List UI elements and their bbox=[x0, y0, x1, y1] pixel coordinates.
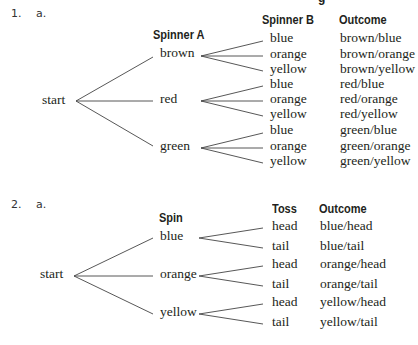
level2-node: tail bbox=[272, 238, 289, 254]
outcome: orange/tail bbox=[320, 276, 378, 292]
cutoff-heading-fragment: g bbox=[318, 0, 325, 5]
branch-yellow-tail bbox=[199, 314, 263, 324]
level1-node: orange bbox=[160, 266, 197, 282]
outcome: green/orange bbox=[340, 138, 410, 154]
level1-node: red bbox=[160, 91, 177, 107]
outcome: blue/head bbox=[320, 218, 372, 234]
problem-part: a. bbox=[36, 198, 46, 211]
level2-node: tail bbox=[272, 314, 289, 330]
branch-start-green bbox=[76, 101, 153, 146]
outcome: brown/yellow bbox=[340, 61, 415, 77]
branch-start-blue bbox=[74, 238, 153, 276]
header-outcome: Outcome bbox=[319, 202, 367, 216]
outcome: brown/blue bbox=[340, 30, 402, 46]
branch-blue-head bbox=[199, 228, 263, 238]
header-spinner-a: Spinner A bbox=[153, 28, 205, 42]
header-toss: Toss bbox=[272, 202, 297, 216]
outcome: red/orange bbox=[340, 91, 398, 107]
branch-green-blue bbox=[201, 133, 263, 148]
outcome: orange/head bbox=[320, 256, 386, 272]
level1-node: green bbox=[160, 138, 190, 154]
level2-node: orange bbox=[270, 91, 307, 107]
level1-node: brown bbox=[160, 45, 195, 61]
level2-node: yellow bbox=[270, 61, 307, 77]
header-spin: Spin bbox=[159, 211, 183, 225]
level2-node: blue bbox=[270, 122, 293, 138]
branch-green-yellow bbox=[201, 148, 263, 163]
level2-node: blue bbox=[270, 76, 293, 92]
branch-start-brown bbox=[76, 57, 153, 101]
outcome: yellow/head bbox=[320, 294, 386, 310]
problem-number: 2. bbox=[11, 198, 22, 211]
problem-number: 1. bbox=[11, 7, 22, 20]
header-spinner-b: Spinner B bbox=[262, 13, 314, 27]
branch-blue-tail bbox=[199, 238, 263, 248]
level2-node: orange bbox=[270, 46, 307, 62]
level2-node: head bbox=[272, 294, 297, 310]
outcome: yellow/tail bbox=[320, 314, 378, 330]
level2-node: tail bbox=[272, 276, 289, 292]
outcome: red/blue bbox=[340, 76, 384, 92]
level2-node: yellow bbox=[270, 106, 307, 122]
level1-node: yellow bbox=[160, 304, 197, 320]
outcome: blue/tail bbox=[320, 238, 364, 254]
problem-part: a. bbox=[36, 7, 46, 20]
branch-red-yellow bbox=[201, 101, 263, 116]
level2-node: blue bbox=[270, 30, 293, 46]
header-outcome: Outcome bbox=[339, 13, 387, 27]
branch-brown-yellow bbox=[201, 56, 263, 71]
level1-node: blue bbox=[160, 228, 183, 244]
outcome: red/yellow bbox=[340, 106, 398, 122]
branch-orange-head bbox=[199, 266, 263, 276]
outcome: brown/orange bbox=[340, 46, 415, 62]
branch-yellow-head bbox=[199, 304, 263, 314]
root-start: start bbox=[42, 92, 65, 108]
branch-red-blue bbox=[201, 86, 263, 101]
outcome: green/blue bbox=[340, 122, 397, 138]
root-start: start bbox=[40, 266, 63, 282]
level2-node: orange bbox=[270, 138, 307, 154]
branch-brown-blue bbox=[201, 41, 263, 56]
outcome: green/yellow bbox=[340, 153, 410, 169]
branch-start-yellow bbox=[74, 276, 153, 314]
level2-node: head bbox=[272, 256, 297, 272]
level2-node: yellow bbox=[270, 153, 307, 169]
branch-orange-tail bbox=[199, 276, 263, 286]
level2-node: head bbox=[272, 218, 297, 234]
